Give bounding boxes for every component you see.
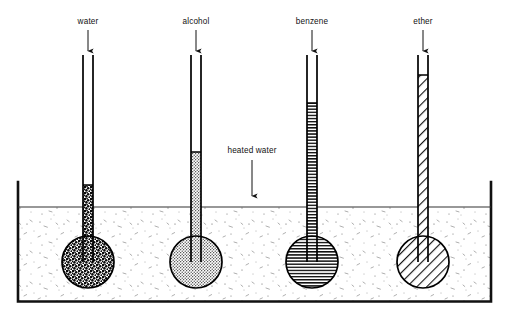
thermometer-alcohol-label: alcohol [183, 17, 210, 26]
diagram-canvas: water alcohol benzene [0, 0, 507, 322]
heated-water-callout: heated water [227, 146, 276, 196]
thermometer-ether-label: ether [413, 17, 433, 26]
thermometer-diagram-svg: water alcohol benzene [0, 0, 507, 322]
thermometer-benzene-label: benzene [296, 17, 329, 26]
heated-water-label: heated water [227, 146, 276, 155]
thermometer-water[interactable]: water [62, 17, 114, 288]
thermometer-benzene-liquid [286, 103, 338, 288]
thermometer-ether[interactable]: ether [397, 17, 449, 288]
thermometer-water-label: water [77, 17, 99, 26]
thermometer-benzene[interactable]: benzene [286, 17, 338, 288]
thermometer-alcohol[interactable]: alcohol [170, 17, 222, 288]
thermometer-ether-liquid [397, 75, 449, 288]
